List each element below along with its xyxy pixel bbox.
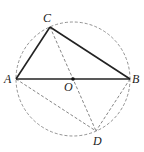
label-b: B xyxy=(132,72,140,86)
label-d: D xyxy=(92,134,102,148)
segment-ac xyxy=(16,27,50,79)
segment-cb xyxy=(50,27,130,79)
segment-ad xyxy=(16,79,96,131)
label-a: A xyxy=(3,72,12,86)
label-c: C xyxy=(43,11,52,25)
segment-bd xyxy=(96,79,130,131)
label-o: O xyxy=(64,80,73,94)
geometry-diagram: A B C D O xyxy=(0,0,144,152)
